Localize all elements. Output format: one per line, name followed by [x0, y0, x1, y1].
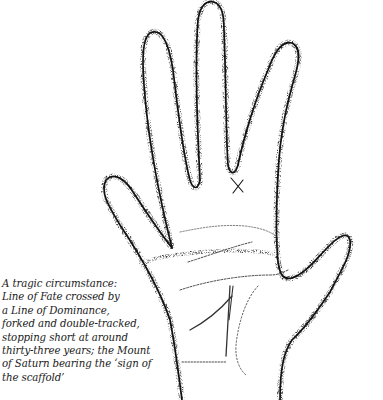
middle-finger-outline	[196, 2, 238, 180]
caption-line: a Line of Dominance,	[2, 304, 202, 317]
caption-line: of Saturn bearing the ‘sign of	[2, 357, 202, 370]
caption-line: A tragic circumstance:	[2, 277, 202, 290]
caption-line: stopping short at around	[2, 331, 202, 344]
finger-base-line	[180, 225, 278, 238]
sign-of-the-scaffold-icon	[231, 178, 243, 193]
line-of-fate-fork-left	[226, 286, 230, 356]
caption-line: the scaffold’	[2, 371, 202, 384]
caption-line: thirty-three years; the Mount	[2, 344, 202, 357]
life-line	[236, 286, 258, 375]
caption-line: Line of Fate crossed by	[2, 290, 202, 303]
figure-caption: A tragic circumstance: Line of Fate cros…	[2, 277, 202, 384]
caption-line: forked and double-tracked,	[2, 317, 202, 330]
